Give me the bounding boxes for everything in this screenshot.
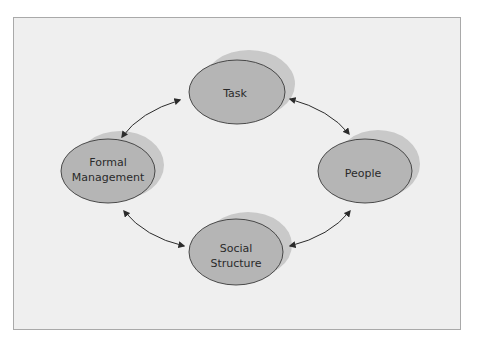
node-label-line1: Formal [89, 156, 127, 169]
organization-diagram: Task Formal Management People Social Str… [0, 0, 478, 346]
node-label-line2: Structure [210, 257, 261, 270]
node-label: Task [222, 87, 247, 100]
node-label-line1: Social [220, 242, 253, 255]
node-label-line2: Management [72, 171, 145, 184]
node-label: People [345, 167, 382, 180]
